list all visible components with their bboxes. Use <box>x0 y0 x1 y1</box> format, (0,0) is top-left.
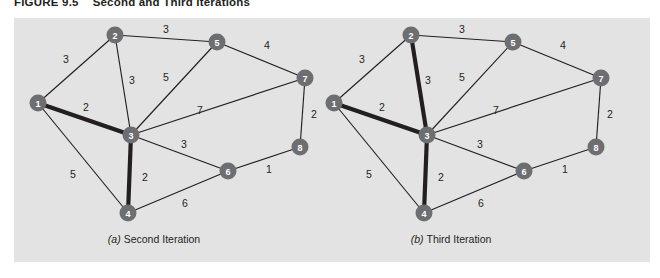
graph-diagram: 325332537641212345678(a)Second Iteration… <box>14 18 650 262</box>
panel-b: 325332537641212345678(b)Third Iteration <box>326 23 614 245</box>
edge-weight-3-4: 2 <box>142 171 148 183</box>
edge-weight-5-7: 4 <box>560 39 566 51</box>
edge-weight-6-8: 1 <box>266 163 272 175</box>
edge-weight-3-5: 5 <box>163 71 169 83</box>
node-label-1: 1 <box>331 99 336 109</box>
node-label-3: 3 <box>128 131 133 141</box>
edge-weight-3-7: 7 <box>197 104 203 116</box>
panel-a-caption: (a)Second Iteration <box>108 233 200 245</box>
edge-weight-7-8: 2 <box>607 108 613 120</box>
edge-1-2 <box>38 35 115 103</box>
edge-weight-3-7: 7 <box>493 104 499 116</box>
node-label-7: 7 <box>302 74 307 84</box>
edge-weight-5-7: 4 <box>264 39 270 51</box>
panel-a-caption-text: Second Iteration <box>124 233 201 245</box>
figure-panel: 325332537641212345678(a)Second Iteration… <box>14 18 650 262</box>
node-label-6: 6 <box>521 167 526 177</box>
node-label-8: 8 <box>297 143 302 153</box>
edge-3-6 <box>427 135 524 171</box>
edge-weight-1-2: 3 <box>63 53 69 65</box>
figure-title: FIGURE 9.5Second and Third Iterations <box>14 0 250 8</box>
edge-weight-1-3: 2 <box>83 101 89 113</box>
edge-2-5 <box>411 35 513 42</box>
node-label-3: 3 <box>424 131 429 141</box>
edge-weight-6-8: 1 <box>562 163 568 175</box>
edge-weight-3-5: 5 <box>459 71 465 83</box>
node-label-7: 7 <box>598 74 603 84</box>
edge-5-7 <box>513 42 601 78</box>
edge-2-5 <box>115 35 217 42</box>
node-label-8: 8 <box>593 143 598 153</box>
edge-weight-1-4: 5 <box>366 168 372 180</box>
panel-b-caption: (b)Third Iteration <box>411 233 492 245</box>
node-label-1: 1 <box>35 99 40 109</box>
edge-1-2 <box>334 35 411 103</box>
edge-weight-4-6: 6 <box>182 197 188 209</box>
edge-7-8 <box>300 78 305 147</box>
node-label-4: 4 <box>125 209 130 219</box>
edge-3-4 <box>128 135 131 213</box>
panel-a-caption-letter: (a) <box>108 233 121 245</box>
edge-5-7 <box>217 42 305 78</box>
node-label-2: 2 <box>112 31 117 41</box>
edge-6-8 <box>524 147 596 171</box>
edge-weight-2-5: 3 <box>163 23 169 35</box>
edge-weight-2-5: 3 <box>459 23 465 35</box>
figure-number: FIGURE 9.5 <box>14 0 79 8</box>
edge-weight-3-4: 2 <box>438 171 444 183</box>
edge-weight-3-6: 3 <box>477 138 483 150</box>
panel-b-caption-letter: (b) <box>411 233 424 245</box>
edge-weight-4-6: 6 <box>478 197 484 209</box>
edge-weight-2-3: 3 <box>425 74 431 86</box>
node-label-5: 5 <box>510 38 515 48</box>
panel-b-caption-text: Third Iteration <box>427 233 492 245</box>
edge-weight-1-4: 5 <box>70 168 76 180</box>
figure-title-text: Second and Third Iterations <box>93 0 250 8</box>
edge-6-8 <box>228 147 300 171</box>
node-label-5: 5 <box>214 38 219 48</box>
edge-7-8 <box>596 78 601 147</box>
edge-weight-1-3: 2 <box>379 101 385 113</box>
edge-weight-7-8: 2 <box>311 108 317 120</box>
node-label-2: 2 <box>408 31 413 41</box>
edge-weight-2-3: 3 <box>129 74 135 86</box>
edge-weight-3-6: 3 <box>181 138 187 150</box>
edge-3-4 <box>424 135 427 213</box>
node-label-6: 6 <box>225 167 230 177</box>
panel-a: 325332537641212345678(a)Second Iteration <box>30 23 318 245</box>
edge-3-6 <box>131 135 228 171</box>
node-label-4: 4 <box>421 209 426 219</box>
edge-weight-1-2: 3 <box>359 53 365 65</box>
